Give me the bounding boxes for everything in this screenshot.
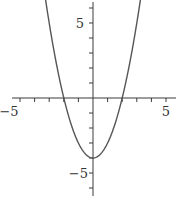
x-tick-label-pos5: 5	[162, 104, 170, 119]
y-tick-label-pos5: 5	[76, 16, 84, 31]
x-tick-label-neg5: −5	[0, 104, 19, 119]
parabola-chart: −5 5 5 −5	[0, 0, 178, 201]
y-tick-label-neg5: −5	[69, 166, 88, 181]
